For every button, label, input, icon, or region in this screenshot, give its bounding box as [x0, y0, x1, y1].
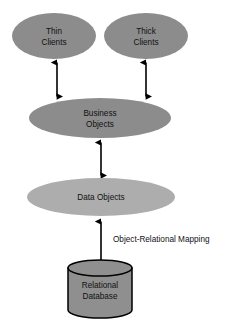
relational-database-label-line-1: Relational	[82, 281, 119, 290]
thin-clients-label-line-2: Clients	[41, 38, 66, 47]
cylinder-top-ellipse	[68, 260, 132, 276]
business-objects-label-line-2: Objects	[86, 120, 114, 129]
thick-clients-label-line-1: Thick	[136, 27, 156, 36]
node-thin-clients[interactable]: Thin Clients	[12, 13, 96, 59]
thin-clients-label-line-1: Thin	[46, 27, 62, 36]
architecture-diagram: Thin Clients Thick Clients Business Obje…	[0, 0, 232, 323]
diagram-canvas: Thin Clients Thick Clients Business Obje…	[0, 0, 232, 323]
object-relational-mapping-label: Object-Relational Mapping	[113, 235, 210, 244]
data-objects-label: Data Objects	[77, 193, 124, 202]
business-objects-label-line-1: Business	[83, 109, 116, 118]
thin-clients-ellipse	[12, 13, 96, 59]
thick-clients-label-line-2: Clients	[133, 38, 158, 47]
relational-database-label-line-2: Database	[82, 292, 117, 301]
edge-layer	[57, 63, 146, 264]
business-objects-ellipse	[29, 98, 171, 138]
node-relational-database[interactable]: Relational Database	[68, 260, 132, 318]
node-thick-clients[interactable]: Thick Clients	[104, 13, 188, 59]
thick-clients-ellipse	[104, 13, 188, 59]
node-business-objects[interactable]: Business Objects	[29, 98, 171, 138]
node-data-objects[interactable]: Data Objects	[27, 178, 175, 216]
